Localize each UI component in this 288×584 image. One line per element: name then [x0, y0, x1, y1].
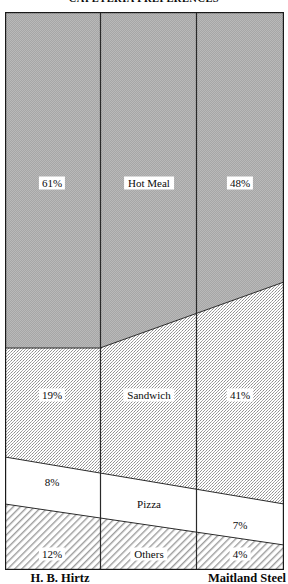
label-pizza-left: 8%: [42, 476, 63, 489]
label-hot-meal-category: Hot Meal: [124, 177, 174, 190]
label-hot-meal-left: 61%: [39, 177, 65, 190]
label-pizza-right: 7%: [230, 519, 251, 532]
label-sandwich-right: 41%: [227, 389, 253, 402]
label-others-category: Others: [130, 548, 167, 561]
axis-caption-right: Maitland Steel: [208, 571, 286, 584]
axis-caption-left: H. B. Hirtz: [30, 571, 89, 584]
label-sandwich-left: 19%: [39, 389, 65, 402]
label-sandwich-category: Sandwich: [123, 389, 174, 402]
plot-area: 61% Hot Meal 48% 19% Sandwich 41% 8% Piz…: [5, 12, 284, 570]
label-others-right: 4%: [230, 548, 251, 561]
cafeteria-preferences-figure: CAFETERIA PREFERENCES: [0, 0, 288, 584]
label-pizza-category: Pizza: [134, 498, 164, 511]
chart-title: CAFETERIA PREFERENCES: [0, 0, 288, 4]
label-hot-meal-right: 48%: [227, 177, 253, 190]
label-others-left: 12%: [39, 548, 65, 561]
